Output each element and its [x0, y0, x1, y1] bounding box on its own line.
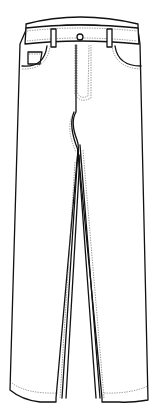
- belt-loop-left: [51, 29, 56, 47]
- pants-body: [10, 27, 148, 402]
- jeans-sketch: [0, 0, 157, 408]
- jeans-drawing: [0, 0, 157, 408]
- belt-loop-right: [107, 29, 112, 47]
- button: [77, 34, 83, 40]
